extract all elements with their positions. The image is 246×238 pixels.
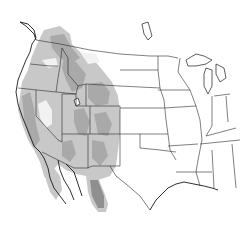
mi-oh-border — [214, 94, 230, 96]
ok-tx-border — [140, 134, 176, 152]
ky-border — [206, 128, 236, 136]
gulf-coastline — [150, 182, 218, 210]
lake-michigan — [204, 68, 212, 94]
ia-mo-border — [164, 106, 196, 108]
il-in-border — [206, 96, 212, 136]
al-ga-border — [232, 144, 236, 188]
mo-ar-border — [168, 144, 198, 146]
lake-winnipeg — [142, 22, 152, 40]
sd-ne-border — [120, 86, 160, 88]
oh-in-border — [226, 96, 228, 122]
lake-superior — [186, 54, 212, 66]
tn-border — [200, 140, 240, 144]
distribution-shading — [18, 26, 120, 212]
lake-huron — [216, 64, 226, 82]
puget-sound — [20, 22, 36, 40]
range-map — [0, 0, 246, 238]
mississippi-river — [190, 90, 202, 186]
ms-al-border — [212, 150, 214, 188]
